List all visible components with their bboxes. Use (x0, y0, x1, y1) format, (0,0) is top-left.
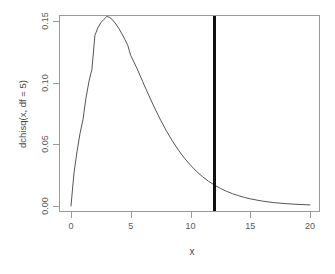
x-axis-tick-label: 10 (174, 221, 208, 231)
y-axis-tick-label: 0.10 (40, 66, 50, 100)
y-axis-tick-label: 0.05 (40, 127, 50, 161)
x-axis-tick-label: 5 (114, 221, 148, 231)
y-axis-tick (53, 21, 59, 22)
chi-squared-density-plot: 05101520 0.000.050.100.15 x dchisq(x, df… (0, 0, 335, 274)
x-axis-label: x (162, 246, 222, 258)
y-axis-tick (53, 83, 59, 84)
y-axis-tick-label: 0.00 (40, 189, 50, 223)
x-axis-tick (250, 212, 251, 218)
x-axis-tick-label: 20 (293, 221, 327, 231)
vertical-reference-line (213, 16, 216, 211)
y-axis-tick-label: 0.15 (40, 4, 50, 38)
x-axis-tick (131, 212, 132, 218)
y-axis-label: dchisq(x, df = 5) (17, 54, 29, 174)
y-axis-tick (53, 206, 59, 207)
x-axis-tick-label: 0 (54, 221, 88, 231)
x-axis-tick (310, 212, 311, 218)
x-axis-tick (191, 212, 192, 218)
y-axis-tick (53, 144, 59, 145)
x-axis-tick (71, 212, 72, 218)
x-axis-tick-label: 15 (233, 221, 267, 231)
density-curve (59, 15, 320, 212)
